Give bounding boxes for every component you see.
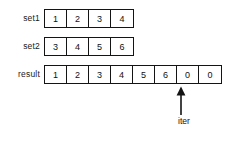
array-cell: 3 [89,66,111,83]
array-cell: 3 [89,10,111,27]
array-cell: 1 [45,10,67,27]
diagram-row-set1: set1 1 2 3 4 [44,9,134,28]
array-cell: 4 [111,10,133,27]
array-cell: 2 [67,10,89,27]
array-cell: 6 [155,66,177,83]
iterator-pointer-label: iter [167,116,201,126]
array-cell: 0 [177,66,199,83]
row-label-set2: set2 [23,37,44,56]
row-label-result: result [18,65,44,84]
array-cell: 3 [45,38,67,55]
array-cell: 1 [45,66,67,83]
arrow-up-icon [172,86,190,116]
iterator-pointer: iter [172,86,206,136]
array-cell: 2 [67,66,89,83]
diagram-row-result: result 1 2 3 4 5 6 0 0 [44,65,222,84]
array-diagram: set1 1 2 3 4 set2 3 4 5 6 result 1 2 3 4… [0,0,240,143]
array-cell: 4 [111,66,133,83]
cell-group-result: 1 2 3 4 5 6 0 0 [44,65,222,84]
array-cell: 6 [111,38,133,55]
diagram-row-set2: set2 3 4 5 6 [44,37,134,56]
array-cell: 4 [67,38,89,55]
cell-group-set2: 3 4 5 6 [44,37,134,56]
array-cell: 0 [199,66,221,83]
cell-group-set1: 1 2 3 4 [44,9,134,28]
row-label-set1: set1 [23,9,44,28]
array-cell: 5 [89,38,111,55]
array-cell: 5 [133,66,155,83]
